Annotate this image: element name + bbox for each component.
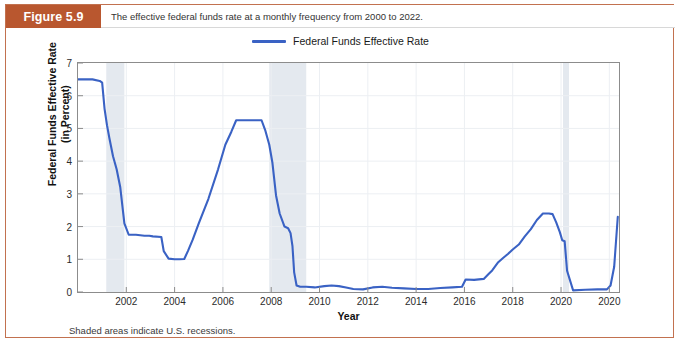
x-tick-label: 2012 xyxy=(357,296,379,307)
figure-caption: The effective federal funds rate at a mo… xyxy=(101,5,675,28)
x-tick-label: 2020 xyxy=(598,296,620,307)
plot-area xyxy=(77,62,620,293)
y-tick-label: 0 xyxy=(50,287,72,298)
y-tick-label: 7 xyxy=(50,58,72,69)
x-tick-label: 2020 xyxy=(550,296,572,307)
x-tick-label: 2014 xyxy=(405,296,427,307)
x-tick-label: 2008 xyxy=(260,296,282,307)
x-axis-title: Year xyxy=(77,310,620,322)
y-tick-label: 5 xyxy=(50,123,72,134)
figure-frame: Figure 5.9 The effective federal funds r… xyxy=(5,4,674,338)
y-tick-label: 3 xyxy=(50,188,72,199)
figure-note: Shaded areas indicate U.S. recessions. xyxy=(69,325,235,336)
legend-label-federal-funds-rate: Federal Funds Effective Rate xyxy=(293,35,429,47)
x-tick-label: 2010 xyxy=(308,296,330,307)
x-tick-label: 2002 xyxy=(115,296,137,307)
x-tick-label: 2018 xyxy=(502,296,524,307)
y-tick-label: 1 xyxy=(50,254,72,265)
y-tick-label: 4 xyxy=(50,156,72,167)
plot-frame xyxy=(77,62,620,293)
chart-legend: Federal Funds Effective Rate xyxy=(6,35,675,47)
legend-line-swatch xyxy=(252,40,286,43)
x-tick-label: 2006 xyxy=(212,296,234,307)
y-tick-label: 2 xyxy=(50,221,72,232)
x-axis-tick-labels: 2002200420062008201020122014201620182020… xyxy=(77,296,620,310)
data-line-federal-funds-rate xyxy=(78,79,618,290)
line-chart-svg xyxy=(78,63,619,292)
figure-container: Figure 5.9 The effective federal funds r… xyxy=(0,0,679,344)
x-tick-label: 2004 xyxy=(163,296,185,307)
y-tick-label: 6 xyxy=(50,90,72,101)
recession-shading xyxy=(106,63,124,292)
x-tick-label: 2016 xyxy=(453,296,475,307)
figure-header: Figure 5.9 The effective federal funds r… xyxy=(6,5,675,28)
y-axis-tick-labels: 01234567 xyxy=(46,62,72,293)
